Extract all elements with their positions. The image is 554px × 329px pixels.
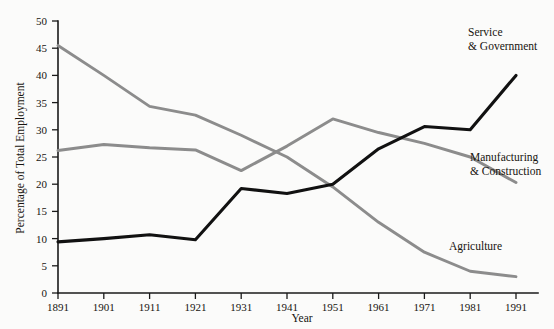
x-tick-label: 1891 — [47, 301, 69, 313]
x-tick-label: 1951 — [322, 301, 344, 313]
series-label-agriculture: Agriculture — [449, 240, 502, 253]
x-tick-label: 1971 — [413, 301, 435, 313]
series-label-service-government-line2: & Government — [468, 40, 538, 52]
x-axis-tick-marks — [58, 293, 516, 299]
y-tick-label: 5 — [42, 260, 48, 272]
x-tick-label: 1961 — [368, 301, 390, 313]
y-tick-label: 50 — [36, 15, 48, 27]
chart-figure: 05101520253035404550 1891190119111921193… — [0, 0, 554, 329]
x-tick-label: 1991 — [505, 301, 527, 313]
x-tick-label: 1981 — [459, 301, 481, 313]
y-axis-tick-labels: 05101520253035404550 — [36, 15, 48, 299]
y-tick-label: 0 — [42, 287, 48, 299]
series-line-agriculture — [58, 45, 516, 276]
x-tick-label: 1921 — [184, 301, 206, 313]
series-label-service-government-line1: Service — [468, 26, 502, 38]
line-chart-canvas: 05101520253035404550 1891190119111921193… — [0, 0, 554, 329]
y-tick-label: 20 — [36, 178, 48, 190]
y-tick-label: 30 — [36, 124, 48, 136]
x-tick-label: 1901 — [93, 301, 115, 313]
x-axis-title: Year — [291, 312, 312, 324]
y-axis-title: Percentage of Total Employment — [14, 82, 27, 234]
x-axis-tick-labels: 1891190119111921193119411951196119711981… — [47, 301, 527, 313]
y-tick-label: 45 — [36, 42, 48, 54]
y-tick-label: 35 — [36, 97, 48, 109]
y-tick-label: 25 — [36, 151, 48, 163]
y-tick-label: 10 — [36, 233, 48, 245]
y-axis-tick-marks — [52, 21, 58, 293]
x-tick-label: 1931 — [230, 301, 252, 313]
y-tick-label: 15 — [36, 205, 48, 217]
x-tick-label: 1911 — [139, 301, 161, 313]
series-label-manufacturing-construction-line2: & Construction — [470, 165, 541, 177]
y-tick-label: 40 — [36, 69, 48, 81]
series-label-manufacturing-construction-line1: Manufacturing — [470, 151, 539, 164]
